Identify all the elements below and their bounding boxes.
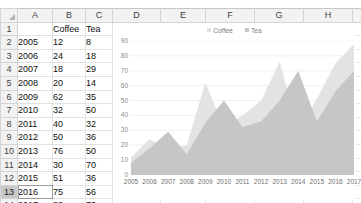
cell-c7[interactable]: 50 bbox=[86, 104, 113, 118]
cell-a9[interactable]: 2012 bbox=[18, 131, 53, 145]
x-tick-2008: 2008 bbox=[180, 178, 194, 186]
x-tick-2007: 2007 bbox=[161, 178, 175, 186]
cell-b3[interactable]: 24 bbox=[53, 49, 86, 63]
row-header-9[interactable]: 9 bbox=[1, 131, 18, 145]
cell-b10[interactable]: 76 bbox=[53, 144, 86, 158]
cell-b14[interactable]: 88 bbox=[53, 199, 86, 203]
cell-a7[interactable]: 2010 bbox=[18, 104, 53, 118]
cell-a3[interactable]: 2006 bbox=[18, 49, 53, 63]
column-header-c[interactable]: C bbox=[86, 9, 113, 23]
column-header-b[interactable]: B bbox=[53, 9, 86, 23]
column-header-a[interactable]: A bbox=[18, 9, 53, 23]
x-tick-2015: 2015 bbox=[310, 178, 324, 186]
cell-b1[interactable]: Coffee bbox=[53, 22, 86, 36]
chart-series-areas bbox=[131, 44, 354, 175]
x-tick-2016: 2016 bbox=[328, 178, 342, 186]
cell-a8[interactable]: 2011 bbox=[18, 117, 53, 131]
chart-plot-wrapper: 0102030405060708090 bbox=[113, 41, 356, 175]
legend-item-coffee[interactable]: Coffee bbox=[207, 26, 233, 34]
column-header-partial[interactable] bbox=[353, 9, 361, 23]
x-tick-2009: 2009 bbox=[198, 178, 212, 186]
x-tick-2014: 2014 bbox=[291, 178, 305, 186]
row-header-14[interactable]: 14 bbox=[1, 199, 18, 203]
cell-c14[interactable]: 70 bbox=[86, 199, 113, 203]
y-tick-80: 80 bbox=[121, 53, 128, 59]
cell-a11[interactable]: 2014 bbox=[18, 158, 53, 172]
cell-a4[interactable]: 2007 bbox=[18, 63, 53, 77]
area-chart-svg bbox=[131, 41, 354, 175]
row-header-10[interactable]: 10 bbox=[1, 144, 18, 158]
cell-a10[interactable]: 2013 bbox=[18, 144, 53, 158]
cell-a2[interactable]: 2005 bbox=[18, 36, 53, 50]
cell-a13[interactable]: 2016 bbox=[18, 185, 53, 199]
row-header-7[interactable]: 7 bbox=[1, 104, 18, 118]
cell-b2[interactable]: 12 bbox=[53, 36, 86, 50]
y-tick-10: 10 bbox=[121, 157, 128, 163]
legend-item-tea[interactable]: Tea bbox=[245, 26, 262, 34]
row-header-5[interactable]: 5 bbox=[1, 76, 18, 90]
y-tick-60: 60 bbox=[121, 83, 128, 89]
y-tick-70: 70 bbox=[121, 68, 128, 74]
cell-b13[interactable]: 75 bbox=[53, 185, 86, 199]
cell-b11[interactable]: 30 bbox=[53, 158, 86, 172]
column-header-row: A B C D E F G H bbox=[1, 9, 361, 23]
x-axis-labels: 2005200620072008200920102011201220132014… bbox=[131, 178, 354, 190]
cell-b6[interactable]: 62 bbox=[53, 90, 86, 104]
cell-b4[interactable]: 18 bbox=[53, 63, 86, 77]
cell-a6[interactable]: 2009 bbox=[18, 90, 53, 104]
cell-b7[interactable]: 32 bbox=[53, 104, 86, 118]
cell-b9[interactable]: 50 bbox=[53, 131, 86, 145]
cell-c5[interactable]: 14 bbox=[86, 76, 113, 90]
embedded-area-chart[interactable]: Coffee Tea 0102030405060708090 200520062… bbox=[113, 23, 356, 200]
row-header-4[interactable]: 4 bbox=[1, 63, 18, 77]
cell-b12[interactable]: 51 bbox=[53, 172, 86, 186]
cell-c8[interactable]: 32 bbox=[86, 117, 113, 131]
x-tick-2017: 2017 bbox=[347, 178, 361, 186]
cell-c13[interactable]: 56 bbox=[86, 185, 113, 199]
column-header-g[interactable]: G bbox=[255, 9, 304, 23]
legend-label-coffee: Coffee bbox=[213, 27, 233, 34]
x-tick-2006: 2006 bbox=[142, 178, 156, 186]
cell-c4[interactable]: 29 bbox=[86, 63, 113, 77]
cell-a14[interactable]: 2017 bbox=[18, 199, 53, 203]
x-tick-2011: 2011 bbox=[236, 178, 250, 186]
cell-a5[interactable]: 2008 bbox=[18, 76, 53, 90]
cell-c11[interactable]: 70 bbox=[86, 158, 113, 172]
y-tick-90: 90 bbox=[121, 38, 128, 44]
cell-b8[interactable]: 40 bbox=[53, 117, 86, 131]
select-all-corner[interactable] bbox=[1, 9, 18, 23]
legend-swatch-coffee-icon bbox=[207, 28, 211, 32]
cell-b5[interactable]: 20 bbox=[53, 76, 86, 90]
cell-c10[interactable]: 50 bbox=[86, 144, 113, 158]
column-header-f[interactable]: F bbox=[206, 9, 255, 23]
row-header-11[interactable]: 11 bbox=[1, 158, 18, 172]
row-header-2[interactable]: 2 bbox=[1, 36, 18, 50]
select-all-triangle-icon bbox=[9, 14, 15, 20]
column-header-e[interactable]: E bbox=[161, 9, 206, 23]
y-tick-30: 30 bbox=[121, 127, 128, 133]
row-header-3[interactable]: 3 bbox=[1, 49, 18, 63]
x-tick-2012: 2012 bbox=[254, 178, 268, 186]
row-header-13[interactable]: 13 bbox=[1, 185, 18, 199]
cell-c9[interactable]: 36 bbox=[86, 131, 113, 145]
column-header-d[interactable]: D bbox=[113, 9, 161, 23]
cell-c6[interactable]: 35 bbox=[86, 90, 113, 104]
y-tick-50: 50 bbox=[121, 98, 128, 104]
cell-a12[interactable]: 2015 bbox=[18, 172, 53, 186]
cell-c1[interactable]: Tea bbox=[86, 22, 113, 36]
x-tick-2013: 2013 bbox=[272, 178, 286, 186]
excel-worksheet-screenshot: A B C D E F G H 1 Coffee Tea bbox=[0, 0, 361, 203]
y-tick-20: 20 bbox=[121, 142, 128, 148]
cell-c12[interactable]: 36 bbox=[86, 172, 113, 186]
y-axis-labels: 0102030405060708090 bbox=[113, 41, 129, 175]
row-header-6[interactable]: 6 bbox=[1, 90, 18, 104]
row-header-8[interactable]: 8 bbox=[1, 117, 18, 131]
cell-a1[interactable] bbox=[18, 22, 53, 36]
row-header-12[interactable]: 12 bbox=[1, 172, 18, 186]
legend-swatch-tea-icon bbox=[245, 28, 249, 32]
column-header-h[interactable]: H bbox=[304, 9, 353, 23]
row-header-1[interactable]: 1 bbox=[1, 22, 18, 36]
cell-c2[interactable]: 8 bbox=[86, 36, 113, 50]
x-tick-2005: 2005 bbox=[124, 178, 138, 186]
cell-c3[interactable]: 18 bbox=[86, 49, 113, 63]
